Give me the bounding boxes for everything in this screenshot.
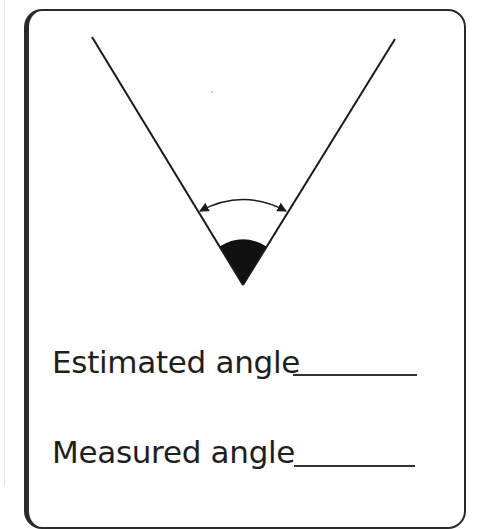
angle-arc-arrow-icon [200, 200, 286, 212]
measured-angle-label: Measured angle [52, 437, 295, 468]
right-ray [243, 39, 395, 285]
measured-angle-blank[interactable] [294, 465, 415, 467]
estimated-angle-blank[interactable] [293, 374, 417, 376]
estimated-angle-label: Estimated angle [52, 347, 300, 378]
speck-mark [211, 91, 213, 93]
shaded-angle-sector [220, 239, 267, 285]
left-ray [92, 37, 243, 285]
